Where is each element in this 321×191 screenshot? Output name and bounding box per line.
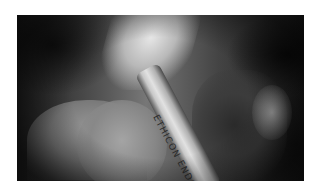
surgical-photo: ETHICON ENDO (17, 15, 304, 181)
vignette (17, 15, 304, 181)
